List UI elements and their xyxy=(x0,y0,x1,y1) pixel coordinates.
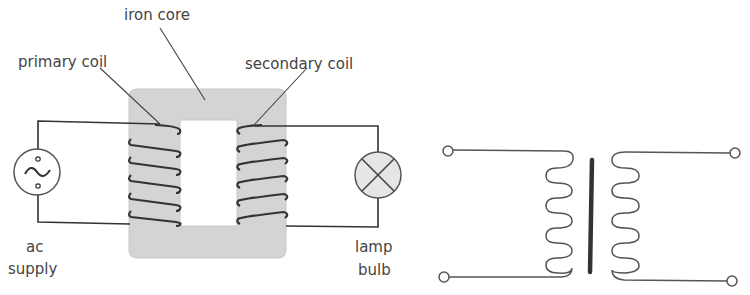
ac-supply-label-line2: supply xyxy=(8,260,58,278)
ac-source-icon xyxy=(14,149,60,195)
primary-coil-label: primary coil xyxy=(18,53,107,71)
lamp-icon xyxy=(355,152,401,198)
lamp-bulb-label-line2: bulb xyxy=(358,261,391,279)
iron-core xyxy=(129,89,286,258)
secondary-coil-label: secondary coil xyxy=(245,55,353,73)
pictorial-transformer: iron core primary coil secondary coil ac… xyxy=(8,6,401,279)
core-bar xyxy=(590,160,592,272)
iron-core-label: iron core xyxy=(124,6,190,24)
transformer-diagram: iron core primary coil secondary coil ac… xyxy=(0,0,750,295)
lamp-bulb-label-line1: lamp xyxy=(355,238,393,256)
ac-supply-label-line1: ac xyxy=(26,238,43,256)
